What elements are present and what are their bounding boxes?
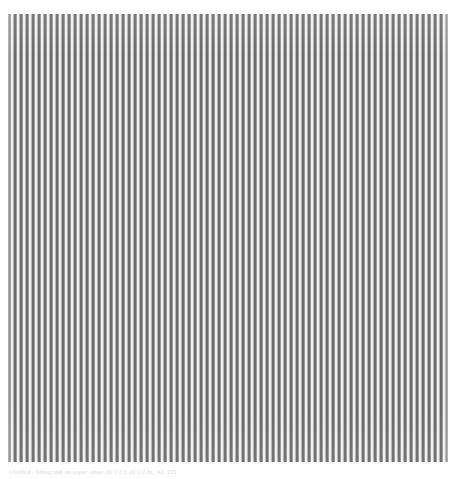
artwork-caption: Untitled, lithograph on paper, sheet 20 …	[9, 468, 439, 476]
caption-details: lithograph on paper, sheet 20 1/2 x 20 1…	[36, 468, 177, 475]
caption-title: Untitled	[9, 468, 30, 475]
artwork-plate: Untitled, lithograph on paper, sheet 20 …	[0, 0, 459, 479]
vertical-stripe-field	[8, 14, 448, 462]
caption-separator: ,	[30, 468, 34, 475]
artwork-image	[8, 14, 448, 462]
